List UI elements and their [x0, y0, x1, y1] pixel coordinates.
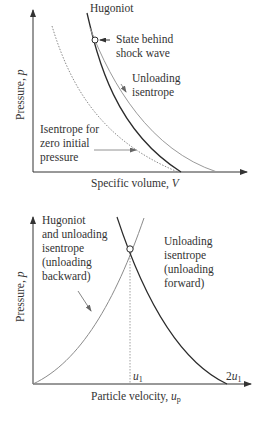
- backward-label-line3: isentrope: [42, 241, 84, 255]
- unloading-isentrope-label-line2: isentrope: [132, 85, 174, 99]
- forward-label-line2: isentrope: [164, 248, 206, 262]
- forward-label-line3: (unloading: [164, 262, 214, 276]
- y-axis-title: Pressure, p: [14, 272, 26, 322]
- x-axis-title: Particle velocity, up: [91, 390, 181, 404]
- forward-label-line1: Unloading: [164, 234, 213, 248]
- y-axis-title: Pressure, p: [14, 70, 26, 120]
- backward-label-line2: and unloading: [42, 227, 107, 241]
- state-behind-label-line1: State behind: [116, 32, 173, 46]
- x-axis-title: Specific volume, V: [91, 177, 179, 189]
- shock-state-point: [92, 37, 98, 43]
- backward-arrow: [78, 291, 91, 311]
- forward-label-line4: forward): [164, 276, 204, 290]
- zero-isentrope-label-line2: zero initial: [40, 136, 90, 150]
- p-v-diagram: Hugoniot State behind shock wave Unloadi…: [0, 0, 259, 212]
- state-behind-label-line2: shock wave: [116, 46, 170, 60]
- zero-isentrope-label-line3: pressure: [40, 150, 78, 164]
- unloading-isentrope-label-line1: Unloading: [132, 71, 181, 85]
- 2u1-tick-label: 2u1: [226, 369, 242, 387]
- shock-state-point: [127, 246, 133, 252]
- backward-label-line5: backward): [42, 269, 91, 283]
- p-up-diagram: Hugoniot and unloading isentrope (unload…: [0, 212, 259, 425]
- backward-label-line4: (unloading: [42, 255, 92, 269]
- zero-isentrope-label-line1: Isentrope for: [40, 122, 99, 136]
- hugoniot-label: Hugoniot: [90, 1, 133, 15]
- u1-tick-label: u1: [133, 369, 143, 387]
- unloading-arrow: [121, 84, 126, 92]
- backward-label-line1: Hugoniot: [42, 213, 85, 227]
